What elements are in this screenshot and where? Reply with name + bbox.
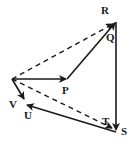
vector-diagram-canvas <box>0 0 140 144</box>
label-T: T <box>102 116 109 127</box>
label-U: U <box>24 110 32 121</box>
vector-origin-V <box>12 79 24 99</box>
label-S: S <box>121 126 127 137</box>
dashed-vector-origin-R <box>12 24 113 79</box>
vector-diagram: R Q P V U T S <box>0 0 140 144</box>
label-Q: Q <box>106 32 115 43</box>
label-P: P <box>62 85 69 96</box>
label-V: V <box>9 99 17 110</box>
label-R: R <box>101 5 109 16</box>
